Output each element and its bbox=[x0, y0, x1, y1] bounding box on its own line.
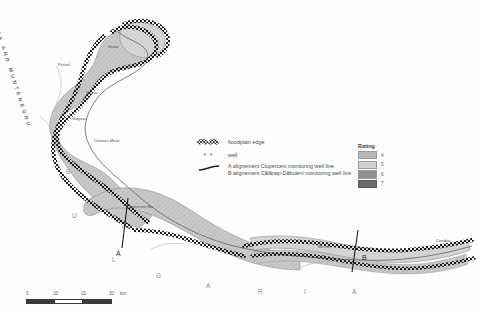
legend-label-alignment-b: B alignement Călăraşi-Dăbuleni monitorin… bbox=[228, 170, 351, 177]
rating-swatch bbox=[358, 161, 377, 169]
place-label: Ciuperceni No bbox=[126, 204, 153, 209]
place-label: Ostrovu Mare bbox=[94, 138, 119, 143]
legend-label-alignment-a: A alignement Ciuperceni monitoring well … bbox=[228, 163, 351, 170]
legend-label-floodplain-edge: floodplain edge bbox=[228, 139, 265, 146]
rating-entry: 5 bbox=[358, 161, 410, 169]
place-label: Salcia bbox=[86, 90, 97, 95]
place-label: Desa bbox=[122, 224, 132, 229]
legend-item-floodplain-edge: floodplain edge bbox=[197, 138, 347, 147]
bulgaria-letter: L bbox=[112, 256, 116, 263]
scale-segment bbox=[82, 299, 112, 304]
place-label: Bechet bbox=[318, 244, 331, 249]
scale-tick-label: 10 bbox=[53, 291, 58, 296]
alignment-label-b: B bbox=[362, 254, 367, 261]
rating-value: 6 bbox=[381, 172, 384, 177]
scale-tick-label: 0 bbox=[26, 291, 29, 296]
scale-bar: 0 10 20 30 km bbox=[26, 291, 118, 303]
legend-item-well: well bbox=[197, 150, 347, 159]
well-icon bbox=[197, 150, 223, 159]
scale-bar-labels: 0 10 20 30 km bbox=[26, 291, 118, 298]
rating-value: 7 bbox=[381, 181, 384, 186]
rating-swatch bbox=[358, 180, 377, 188]
bulgaria-letter: B bbox=[66, 168, 70, 175]
rating-entry: 6 bbox=[358, 170, 410, 178]
alignment-line-icon bbox=[197, 163, 223, 173]
bulgaria-letter: G bbox=[156, 272, 161, 279]
scale-segment bbox=[26, 299, 56, 304]
legend: floodplain edge well A alignement Ciuper… bbox=[197, 138, 347, 176]
map-canvas: SERBIA AND MUNTENEGRU B U L G A R I A A … bbox=[0, 0, 486, 317]
bulgaria-letter: A bbox=[206, 282, 210, 289]
rating-value: 5 bbox=[381, 162, 384, 167]
scale-tick-label: 30 bbox=[109, 291, 114, 296]
place-label: Gogosu bbox=[72, 116, 87, 121]
rating-entry: 4 bbox=[358, 151, 410, 159]
rating-entry: 7 bbox=[358, 180, 410, 188]
scale-tick-label: 20 bbox=[81, 291, 86, 296]
scale-bar-graphic bbox=[26, 299, 118, 303]
legend-item-alignment-lines: A alignement Ciuperceni monitoring well … bbox=[197, 163, 347, 177]
rating-value: 4 bbox=[381, 153, 384, 158]
place-label: Gruia bbox=[108, 44, 118, 49]
scale-segment bbox=[54, 299, 84, 304]
legend-label-well: well bbox=[228, 152, 237, 159]
bulgaria-letter: A bbox=[352, 288, 356, 295]
rating-swatch bbox=[358, 151, 377, 159]
rating-legend: Rating 4 5 6 7 bbox=[358, 143, 410, 189]
bulgaria-letter: I bbox=[304, 288, 306, 295]
bulgaria-letter: R bbox=[258, 288, 263, 295]
alignment-label-a: A bbox=[116, 250, 121, 257]
rating-swatch bbox=[358, 170, 377, 178]
floodplain-edge-icon bbox=[197, 138, 223, 147]
place-label: Corabia bbox=[436, 238, 451, 243]
bulgaria-letter: U bbox=[72, 212, 77, 219]
rating-title: Rating bbox=[358, 143, 410, 149]
place-label: Pristol bbox=[58, 62, 70, 67]
scale-unit-label: km bbox=[120, 291, 126, 296]
